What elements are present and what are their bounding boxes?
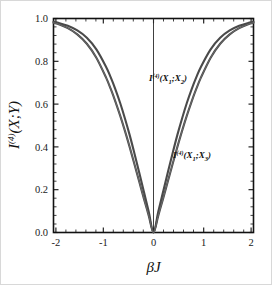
y-tick-label-4: 0.8 — [35, 56, 48, 67]
y-tick-label-5: 1.0 — [35, 13, 48, 24]
x-tick-label-2: 0 — [151, 237, 156, 248]
annotation-x1-x3-superscript: (4) — [177, 150, 184, 157]
annotation-x1-x3: I(4)(X1;X3) — [172, 150, 211, 162]
figure-container: 0.0 0.2 0.4 0.6 0.8 1.0 -2 -1 0 1 2 I(4)… — [0, 0, 272, 285]
chart-canvas: 0.0 0.2 0.4 0.6 0.8 1.0 -2 -1 0 1 2 I(4)… — [1, 1, 272, 285]
svg-text:I(4)(X1;X3): I(4)(X1;X3) — [172, 150, 211, 162]
y-tick-label-3: 0.6 — [35, 99, 48, 110]
y-axis-title-superscript: (4) — [6, 134, 16, 145]
x-axis-title: βJ — [145, 259, 161, 275]
annotation-x1-x3-end: ) — [207, 150, 211, 160]
x-tick-label-3: 1 — [201, 237, 206, 248]
x-tick-label-0: -2 — [52, 237, 61, 248]
y-tick-label-0: 0.0 — [35, 227, 48, 238]
x-tick-label-1: -1 — [99, 237, 108, 248]
annotation-x1-x2-superscript: (4) — [153, 73, 160, 80]
x-tick-label-4: 2 — [248, 237, 253, 248]
y-axis-title: I(4)(X;Y) — [6, 101, 23, 150]
annotation-x1-x2-end: ) — [183, 73, 187, 83]
svg-text:I(4)(X;Y): I(4)(X;Y) — [6, 101, 23, 150]
y-tick-label-2: 0.4 — [35, 142, 49, 153]
y-tick-label-1: 0.2 — [35, 184, 48, 195]
y-axis-title-args: (X;Y) — [6, 101, 23, 134]
